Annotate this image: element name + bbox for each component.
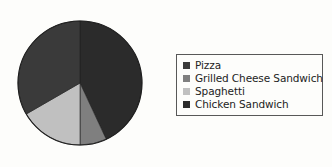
legend-item-pizza[interactable]: Pizza (183, 59, 317, 72)
square-swatch-icon (183, 75, 190, 82)
legend-item-spaghetti[interactable]: Spaghetti (183, 85, 317, 98)
legend-item-label: Grilled Cheese Sandwich (195, 72, 323, 85)
square-swatch-icon (183, 88, 190, 95)
legend-item-grilled-cheese-sandwich[interactable]: Grilled Cheese Sandwich (183, 72, 317, 85)
legend-item-label: Chicken Sandwich (195, 98, 289, 111)
square-swatch-icon (183, 101, 190, 108)
square-swatch-icon (183, 62, 190, 69)
legend-item-label: Pizza (195, 59, 221, 72)
legend-item-label: Spaghetti (195, 85, 245, 98)
pie-slices (18, 21, 142, 145)
pie-chart (16, 12, 144, 156)
pie-svg (16, 12, 144, 156)
chart-legend: Pizza Grilled Cheese Sandwich Spaghetti … (176, 54, 323, 116)
pie-chart-figure: Pizza Grilled Cheese Sandwich Spaghetti … (0, 0, 332, 167)
legend-item-chicken-sandwich[interactable]: Chicken Sandwich (183, 98, 317, 111)
